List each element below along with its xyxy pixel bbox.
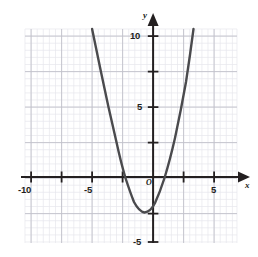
y-axis xyxy=(148,13,159,243)
x-tick-label-5: 5 xyxy=(211,184,216,195)
x-axis-label: x xyxy=(245,180,250,190)
y-tick-label-10: 10 xyxy=(130,30,140,41)
y-tick-label-5: 5 xyxy=(137,101,142,112)
y-axis-label: y xyxy=(143,10,147,20)
origin-label: O xyxy=(146,178,152,187)
graph-figure: -10 -5 5 10 5 -5 x y O xyxy=(0,0,258,257)
x-tick-label-neg10: -10 xyxy=(18,184,31,195)
major-gridlines xyxy=(25,29,237,243)
minor-gridlines xyxy=(25,29,237,243)
y-tick-label-neg5: -5 xyxy=(133,236,141,247)
x-tick-label-neg5: -5 xyxy=(84,184,92,195)
coordinate-plane xyxy=(0,0,258,257)
